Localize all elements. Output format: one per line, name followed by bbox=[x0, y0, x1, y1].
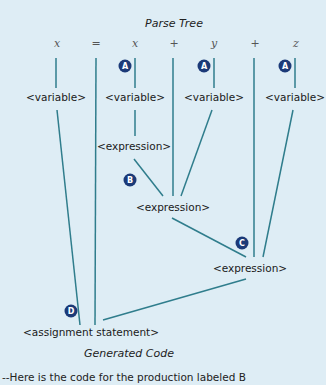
node-variable-2: <variable> bbox=[105, 91, 165, 103]
edge-var4-expr3 bbox=[263, 110, 293, 257]
badge-d: D bbox=[65, 305, 78, 318]
node-expression-3: <expression> bbox=[213, 262, 287, 274]
svg-text:D: D bbox=[68, 307, 75, 316]
node-expression-2: <expression> bbox=[136, 201, 210, 213]
node-expression-1: <expression> bbox=[97, 140, 171, 152]
token-equals: = bbox=[91, 37, 100, 50]
badge-c: C bbox=[236, 237, 249, 250]
parse-tree-title: Parse Tree bbox=[145, 17, 203, 30]
edge-expr3-assign bbox=[103, 279, 246, 320]
node-variable-4: <variable> bbox=[265, 91, 325, 103]
badge-a-1: A bbox=[119, 60, 132, 73]
node-variable-3: <variable> bbox=[184, 91, 244, 103]
token-z: z bbox=[292, 37, 299, 50]
badge-b: B bbox=[124, 174, 137, 187]
generated-code-title: Generated Code bbox=[84, 347, 174, 360]
svg-text:A: A bbox=[201, 62, 208, 71]
svg-text:A: A bbox=[282, 62, 289, 71]
node-assignment-statement: <assignment statement> bbox=[23, 326, 159, 338]
edge-expr1-expr2 bbox=[134, 159, 163, 196]
token-plus1: + bbox=[169, 37, 178, 50]
token-plus2: + bbox=[250, 37, 259, 50]
svg-text:C: C bbox=[239, 239, 245, 248]
badge-a-2: A bbox=[198, 60, 211, 73]
token-y: y bbox=[210, 37, 218, 50]
edge-var1-assign bbox=[57, 110, 80, 325]
svg-text:A: A bbox=[122, 62, 129, 71]
edge-var3-expr2 bbox=[181, 110, 212, 196]
generated-code-line: --Here is the code for the production la… bbox=[2, 371, 246, 383]
edge-expr2-expr3 bbox=[172, 218, 246, 257]
parse-tree-diagram: Parse Tree x = x + y + z <variable> <var… bbox=[0, 0, 326, 385]
node-variable-1: <variable> bbox=[26, 91, 86, 103]
token-x1: x bbox=[54, 37, 61, 50]
badge-a-3: A bbox=[279, 60, 292, 73]
svg-text:B: B bbox=[127, 176, 133, 185]
token-x2: x bbox=[132, 37, 139, 50]
edge-equals-assign bbox=[95, 58, 96, 325]
